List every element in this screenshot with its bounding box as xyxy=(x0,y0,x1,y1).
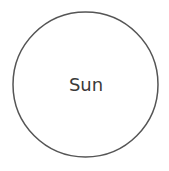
node-sun: Sun xyxy=(13,12,158,157)
sun-label: Sun xyxy=(69,74,103,95)
diagram-canvas: Sun xyxy=(0,0,169,171)
